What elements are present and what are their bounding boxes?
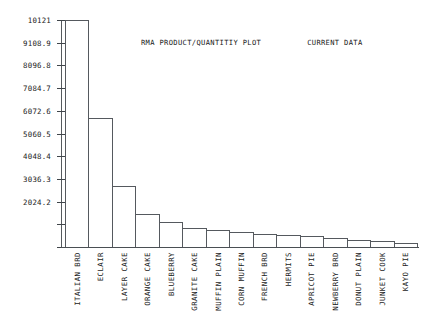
bar [347,240,371,248]
bar [159,222,183,247]
bar [112,186,136,247]
x-axis-label-cell: FRENCH BRD [253,252,276,335]
y-axis-tick-label: 5060.5 [23,129,51,138]
x-axis-label-cell: ITALIAN BRD [65,252,88,335]
y-axis-tick-label: 2024.2 [23,197,51,206]
y-axis-tick-label: 7084.7 [23,84,51,93]
bar [323,238,347,247]
x-axis-label-cell: JUNKET COOK [370,252,393,335]
bar [88,118,112,247]
x-axis-category-label: ITALIAN BRD [72,252,81,306]
x-axis-category-label: JUNKET COOK [377,252,386,306]
x-axis-category-labels: ITALIAN BRDECLAIRLAYER CAKEORANGE CAKEBL… [65,252,417,335]
x-axis-category-label: HERMITS [283,252,292,286]
y-axis-tick-labels: 101219108.98096.87084.76072.65060.54048.… [0,0,51,335]
bar [182,228,206,247]
y-axis-tick-label: 4048.4 [23,152,51,161]
x-axis-category-label: DONUT PLAIN [354,252,363,306]
x-axis-category-label: GRANITE CAKE [190,252,199,311]
x-axis-category-label: MUFFIN PLAIN [213,252,222,311]
x-axis-label-cell: LAYER CAKE [112,252,135,335]
x-axis-baseline [61,247,419,248]
bar [65,20,89,247]
bar [370,241,394,247]
y-axis-tick-label: 9108.9 [23,38,51,47]
bar [229,232,253,247]
x-axis-label-cell: NEWBERRY BRD [323,252,346,335]
x-axis-label-cell: HERMITS [276,252,299,335]
bar [300,236,324,247]
x-axis-category-label: CORN MUFFIN [237,252,246,306]
x-axis-category-label: NEWBERRY BRD [330,252,339,311]
y-axis-tick-label: 8096.8 [23,61,51,70]
x-axis-label-cell: ORANGE CAKE [135,252,158,335]
bar [394,243,418,247]
y-axis-tick-label: 6072.6 [23,106,51,115]
x-axis-label-cell: GRANITE CAKE [182,252,205,335]
x-axis-category-label: ECLAIR [96,252,105,281]
bar [276,235,300,247]
bar [206,230,230,247]
x-axis-label-cell: MUFFIN PLAIN [206,252,229,335]
bar-series [65,20,417,247]
x-axis-category-label: KAYO PIE [401,252,410,291]
x-axis-category-label: FRENCH BRD [260,252,269,301]
x-axis-category-label: LAYER CAKE [119,252,128,301]
x-axis-label-cell: CORN MUFFIN [229,252,252,335]
x-axis-label-cell: BLUEBERRY [159,252,182,335]
bar [253,234,277,247]
x-axis-label-cell: APRICOT PIE [300,252,323,335]
y-axis-tick-label: 3036.3 [23,174,51,183]
plot-area [61,20,419,247]
x-axis-category-label: APRICOT PIE [307,252,316,306]
x-axis-label-cell: ECLAIR [88,252,111,335]
bar [135,214,159,247]
x-axis-label-cell: KAYO PIE [394,252,417,335]
x-axis-category-label: ORANGE CAKE [143,252,152,306]
rma-product-quantity-bar-chart: RMA PRODUCT/QUANTITIY PLOT CURRENT DATA … [0,0,429,335]
x-axis-category-label: BLUEBERRY [166,252,175,296]
x-axis-label-cell: DONUT PLAIN [347,252,370,335]
y-axis-tick-label: 10121 [28,16,51,25]
